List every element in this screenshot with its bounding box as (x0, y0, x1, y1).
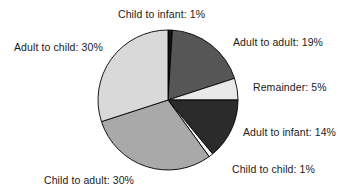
pie-chart-figure: Child to infant: 1% Adult to adult: 19% … (0, 0, 356, 194)
slice-label-remainder: Remainder: 5% (253, 81, 327, 93)
slice-label-adult-to-infant: Adult to infant: 14% (243, 126, 336, 138)
slice-label-child-to-child: Child to child: 1% (232, 163, 315, 175)
slice-label-child-to-adult: Child to adult: 30% (44, 174, 134, 186)
slice-label-adult-to-adult: Adult to adult: 19% (233, 36, 323, 48)
slice-label-adult-to-child: Adult to child: 30% (14, 41, 103, 53)
pie-slices-group (98, 30, 238, 170)
slice-label-child-to-infant: Child to infant: 1% (118, 8, 205, 20)
